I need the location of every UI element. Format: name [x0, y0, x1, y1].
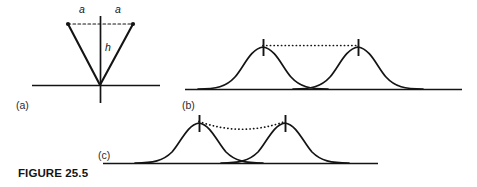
- panel-a-right-ray: [100, 24, 133, 85]
- panel-c-group: (c): [98, 115, 378, 164]
- panel-b-group: (b): [182, 39, 462, 111]
- panel-b-caption-label: (b): [182, 99, 195, 111]
- panel-a-caption-label: (a): [16, 99, 29, 111]
- panel-a-left-source-point: [66, 22, 70, 26]
- panel-a-group: a a h (a): [16, 3, 160, 111]
- panel-a-right-source-point: [131, 22, 135, 26]
- panel-c-caption-label: (c): [98, 149, 110, 161]
- figure-drawing-canvas: a a h (a) (b): [0, 0, 477, 187]
- panel-c-peak-connector-dotted-curve: [199, 122, 285, 130]
- panel-a-label-a-right: a: [115, 3, 121, 15]
- figure-container: a a h (a) (b): [0, 0, 477, 187]
- panel-a-left-ray: [68, 24, 100, 85]
- figure-caption: FIGURE 25.5: [18, 167, 88, 179]
- panel-a-label-h: h: [105, 41, 111, 53]
- panel-a-label-a-left: a: [79, 3, 85, 15]
